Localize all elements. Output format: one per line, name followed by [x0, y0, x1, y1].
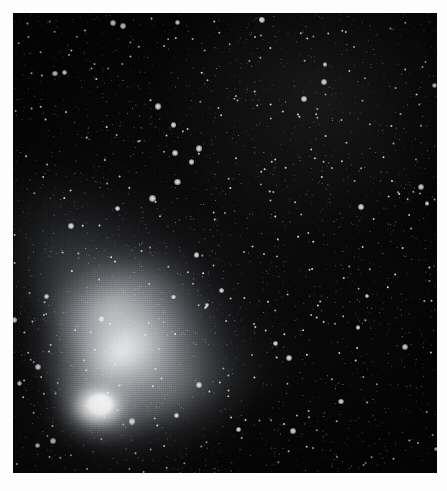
comet-photograph: Bright comet with a teardrop-shaped coma…	[13, 13, 437, 473]
night-sky-background	[13, 13, 437, 473]
photograph-frame: Bright comet with a teardrop-shaped coma…	[0, 0, 447, 491]
